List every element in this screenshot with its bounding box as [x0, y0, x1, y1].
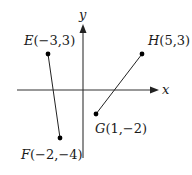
x-axis-label: x — [162, 82, 170, 97]
point-g: G(1,−2) — [94, 112, 148, 136]
point-e-dot-icon — [46, 52, 51, 57]
point-f-label: F(−2,−4) — [20, 147, 83, 162]
coordinate-plane: x y E(−3,3) F(−2,−4) G(1,−2) H(5,3) — [0, 0, 192, 175]
y-axis-label: y — [78, 7, 87, 22]
point-e-label: E(−3,3) — [23, 33, 75, 48]
segment-ef — [48, 54, 60, 138]
point-f-dot-icon — [58, 136, 63, 141]
x-axis: x — [17, 82, 170, 97]
point-g-label: G(1,−2) — [95, 121, 147, 136]
point-g-dot-icon — [94, 112, 99, 117]
point-h: H(5,3) — [140, 33, 191, 56]
x-axis-arrow-icon — [150, 87, 159, 94]
segment-gh — [96, 54, 142, 114]
y-axis-arrow-icon — [80, 24, 87, 33]
point-h-dot-icon — [140, 52, 145, 57]
point-e: E(−3,3) — [23, 33, 75, 56]
point-f: F(−2,−4) — [20, 136, 83, 162]
y-axis: y — [78, 7, 87, 158]
point-h-label: H(5,3) — [147, 33, 190, 48]
